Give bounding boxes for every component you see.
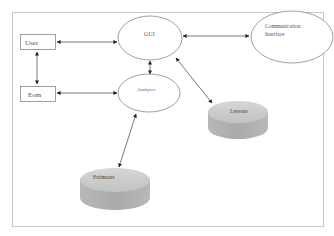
node-lessons-label: Lessons	[230, 108, 248, 114]
node-eom: Eom	[21, 87, 56, 102]
node-gui-label: GUI	[144, 31, 155, 37]
node-comm-label-line2: Interface	[265, 31, 285, 37]
node-comm-label-line1: Communication	[265, 23, 301, 29]
node-estimates-label: Estimates	[93, 174, 114, 180]
node-analyzer-label: Analyzer	[137, 87, 156, 92]
node-user: User	[21, 35, 56, 50]
node-communication-interface: Communication Interface	[251, 11, 333, 63]
node-eom-label: Eom	[28, 91, 42, 99]
node-lessons-database: Lessons	[208, 101, 268, 139]
diagram-canvas: User Eom GUI Analyzer Communication Inte…	[0, 0, 334, 236]
node-estimates-database: Estimates	[80, 168, 150, 210]
node-gui: GUI	[118, 16, 182, 60]
node-user-label: User	[25, 39, 39, 47]
node-analyzer: Analyzer	[118, 74, 180, 112]
